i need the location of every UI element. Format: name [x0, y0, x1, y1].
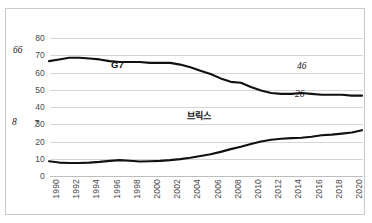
- y-axis-tick: 50: [5, 85, 45, 95]
- chart-container: 80 70 60 50 40 30 20 10 0 1990 1992 1994…: [5, 8, 365, 215]
- x-axis: 1990 1992 1994 1996 1998 2000 2002 2004 …: [50, 179, 363, 215]
- gridline: [50, 90, 363, 91]
- series-label-g7: G7: [111, 59, 124, 70]
- y-axis-tick: 60: [5, 68, 45, 78]
- x-axis-tick: 1998: [132, 179, 142, 215]
- data-label-g7-start: 66: [13, 45, 23, 55]
- x-axis-tick: 1990: [51, 179, 61, 215]
- series-label-brics: 브릭스: [187, 109, 211, 122]
- y-axis-tick: 40: [5, 102, 45, 112]
- gridline: [50, 107, 363, 108]
- x-axis-tick: 2002: [172, 179, 182, 215]
- x-axis-tick: 1994: [91, 179, 101, 215]
- x-axis-tick: 2012: [273, 179, 283, 215]
- y-axis-tick: 20: [5, 137, 45, 147]
- gridline: [50, 142, 363, 143]
- data-label-brics-end: 26: [295, 89, 305, 99]
- y-axis: 80 70 60 50 40 30 20 10 0: [6, 38, 45, 176]
- y-axis-tick: 0: [5, 171, 45, 181]
- x-axis-tick: 2016: [314, 179, 324, 215]
- gridline: [50, 124, 363, 125]
- x-axis-tick: 2014: [293, 179, 303, 215]
- x-axis-tick: 2004: [192, 179, 202, 215]
- plot-area: [50, 38, 363, 176]
- x-axis-line: [50, 176, 363, 177]
- y-axis-tick: 10: [5, 154, 45, 164]
- y-axis-tick: 30: [5, 119, 45, 129]
- x-axis-tick: 2018: [334, 179, 344, 215]
- gridline: [50, 159, 363, 160]
- gridline: [50, 55, 363, 56]
- x-axis-tick: 2000: [152, 179, 162, 215]
- x-axis-tick: 2020: [354, 179, 364, 215]
- x-axis-tick: 2010: [253, 179, 263, 215]
- gridline: [50, 73, 363, 74]
- data-label-g7-end: 46: [297, 61, 307, 71]
- gridline: [50, 38, 363, 39]
- y-axis-tick: 80: [5, 33, 45, 43]
- data-label-brics-start: 8: [12, 117, 17, 127]
- x-axis-tick: 2008: [233, 179, 243, 215]
- data-label-brics-dip: 7: [34, 119, 39, 129]
- y-axis-tick: 70: [5, 50, 45, 60]
- x-axis-tick: 2006: [213, 179, 223, 215]
- x-axis-tick: 1992: [71, 179, 81, 215]
- x-axis-tick: 1996: [112, 179, 122, 215]
